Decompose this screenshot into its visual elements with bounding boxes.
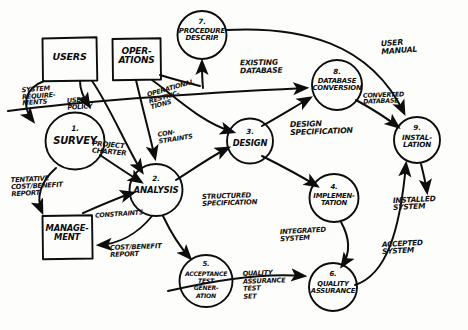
flow-label-cost-benefit-report: COST/BENEFIT REPORT (110, 243, 162, 258)
flow-label-integrated-system: INTEGRATED SYSTEM (280, 227, 327, 243)
flow-label-user-manual: USER MANUAL (380, 38, 417, 56)
process-circle-8 (312, 60, 362, 110)
flow-integrated-system (341, 222, 348, 266)
flow-label-existing-database: EXISTING DATABASE (240, 59, 283, 75)
flow-label-quality-assurance-test-set: QUALITY ASSURANCE TEST SET (242, 269, 286, 301)
process-circle-6 (309, 263, 357, 311)
flow-installed-system (421, 164, 427, 192)
flow-label-system-requirements: SYSTEM REQUIRE- MENTS (21, 85, 56, 107)
entity-box-management (43, 215, 93, 259)
flow-analysis-to-acceptance (163, 216, 190, 258)
process-circle-3 (227, 119, 273, 164)
process-circle-4 (310, 174, 359, 222)
flow-label-structured-specification: STRUCTURED SPECIFICATION (202, 192, 257, 208)
flow-label-installed-system: INSTALLED SYSTEM (393, 195, 437, 212)
flow-accepted-system (355, 164, 406, 285)
flow-design-spec-to-impl (262, 156, 317, 186)
dfd-canvas: USERS OPER- ATIONS MANAGE- MENT 1. SURVE… (0, 0, 468, 330)
flow-cost-benefit-report (99, 216, 152, 245)
entity-box-users (43, 37, 98, 81)
flow-label-accepted-system: ACCEPTED SYSTEM (382, 239, 424, 256)
process-circle-9 (394, 117, 440, 163)
flow-label-user-policy: USER POLICY (67, 96, 93, 111)
process-circle-7 (178, 11, 227, 59)
flow-arrows (8, 29, 427, 291)
flow-label-converted-database: CONVERTED DATABASE (363, 91, 405, 105)
flow-label-project-charter: PROJECT CHARTER (91, 141, 127, 158)
flow-structured-specification (176, 148, 228, 180)
flow-label-tentative-cost-benefit-report: TENTATIVE COST/BENEFIT REPORT (11, 175, 64, 198)
flow-procedure-descrip-in (202, 62, 203, 88)
flow-label-design-specification: DESIGN SPECIFICATION (290, 119, 353, 137)
entity-box-operations (113, 38, 162, 80)
